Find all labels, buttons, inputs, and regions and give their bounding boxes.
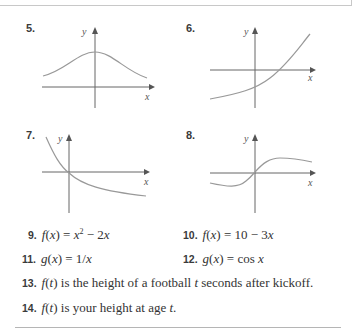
exercise-9: 9.f(x) = x2 − 2x	[28, 227, 110, 243]
x-axis-label: x	[144, 91, 150, 102]
exercise-14-text: f(t) is your height at age t.	[42, 300, 177, 315]
exercise-12: 12.g(x) = cos x	[183, 251, 264, 267]
x-axis-label: x	[307, 72, 313, 83]
bottom-rule	[15, 327, 341, 328]
y-axis-label: y	[81, 26, 87, 37]
y-axis-label: y	[243, 26, 249, 37]
exercise-13-text: f(t) is the height of a football t secon…	[42, 275, 314, 290]
y-axis-label: y	[57, 133, 63, 144]
exercise-11: 11.g(x) = 1/x	[22, 251, 92, 267]
top-rule-edge	[351, 0, 352, 6]
y-axis-label: y	[243, 133, 249, 144]
graph-8-number: 8.	[186, 129, 195, 141]
exercise-12-text: g(x) = cos x	[203, 251, 264, 266]
graph-5: y x	[40, 26, 155, 111]
graph-8: y x	[208, 133, 323, 218]
x-axis-label: x	[143, 176, 149, 187]
x-axis-label: x	[307, 177, 313, 188]
graph-7-number: 7.	[26, 129, 35, 141]
graph-7: y x	[40, 133, 155, 218]
graph-6-number: 6.	[186, 22, 195, 34]
graph-6: y x	[208, 26, 323, 111]
exercise-13: 13.f(t) is the height of a football t se…	[22, 275, 313, 291]
exercise-11-text: g(x) = 1/x	[41, 251, 92, 266]
graph-5-number: 5.	[26, 22, 35, 34]
exercise-10: 10.f(x) = 10 − 3x	[183, 227, 274, 243]
exercise-10-text: f(x) = 10 − 3x	[203, 227, 274, 242]
exercise-9-text: f(x) = x2 − 2x	[42, 227, 110, 242]
top-rule	[0, 5, 352, 6]
exercise-14: 14.f(t) is your height at age t.	[22, 300, 176, 316]
